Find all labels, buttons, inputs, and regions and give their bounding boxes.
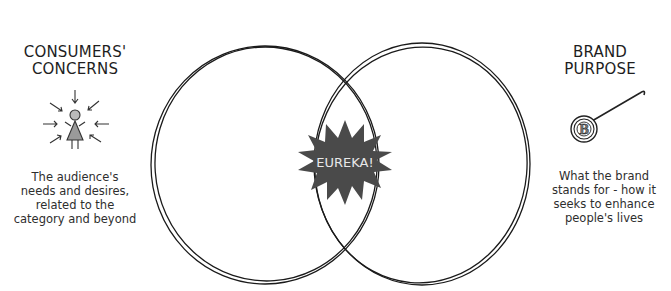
left-desc-line: related to the [5, 198, 145, 212]
right-desc-line: stands for - how it [540, 183, 668, 197]
right-title-line1: BRAND [555, 44, 645, 61]
right-title: BRAND PURPOSE [555, 44, 645, 78]
person-with-arrows-icon [43, 90, 109, 149]
right-desc-line: people's lives [540, 211, 668, 225]
left-title-line2: CONCERNS [15, 61, 135, 78]
badge-letter: B [579, 123, 589, 137]
left-desc-line: category and beyond [5, 212, 145, 226]
eureka-label: EUREKA! [316, 155, 373, 170]
left-desc-line: The audience's [5, 170, 145, 184]
left-desc-line: needs and desires, [5, 184, 145, 198]
left-title: CONSUMERS' CONCERNS [15, 44, 135, 78]
eureka-starburst: EUREKA! [298, 120, 392, 205]
right-desc-line: seeks to enhance [540, 197, 668, 211]
left-description: The audience's needs and desires, relate… [5, 170, 145, 226]
right-description: What the brand stands for - how it seeks… [540, 169, 668, 225]
right-desc-line: What the brand [540, 169, 668, 183]
left-title-line1: CONSUMERS' [15, 44, 135, 61]
brand-badge-pin-icon: B [571, 91, 645, 142]
right-title-line2: PURPOSE [555, 61, 645, 78]
